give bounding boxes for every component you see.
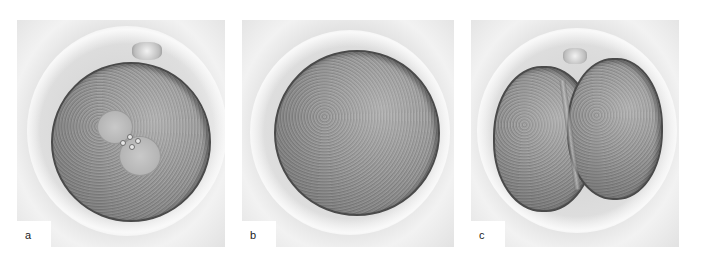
nucleolus xyxy=(129,144,135,150)
nucleolus xyxy=(127,134,133,140)
panel-c: c xyxy=(471,20,679,247)
panel-label-a: a xyxy=(25,229,31,241)
blastomere-right xyxy=(567,58,663,200)
polar-body xyxy=(563,48,587,64)
panel-label-box: a xyxy=(17,221,51,247)
panel-a: a xyxy=(17,20,225,247)
panel-label-b: b xyxy=(250,229,256,241)
panel-label-box: c xyxy=(471,221,505,247)
polar-body xyxy=(132,42,162,60)
nucleolus xyxy=(135,138,141,144)
panel-label-c: c xyxy=(479,229,485,241)
nucleolus xyxy=(120,140,126,146)
oocyte-cell xyxy=(274,50,440,216)
panel-b: b xyxy=(242,20,454,247)
panel-label-box: b xyxy=(242,221,276,247)
